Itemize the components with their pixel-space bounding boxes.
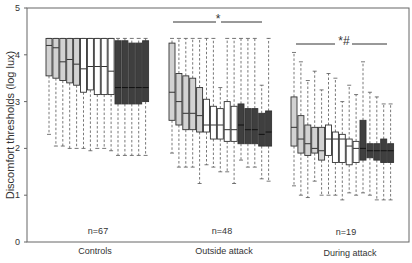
box [81,38,87,148]
box-body [129,43,135,104]
box [53,38,59,146]
box-body [143,41,149,102]
box [190,38,196,167]
y-tick-label: 5 [15,3,20,13]
box-body [231,106,237,141]
box [197,38,203,183]
box-body [353,141,359,162]
box [143,38,149,155]
box-body [169,43,175,120]
box-plot-chart: 012345 Discomfort thresholds (log lux) *… [0,0,412,263]
box-group-during-attack [291,52,394,199]
box-body [245,109,251,144]
category-label-outside: Outside attack [195,246,253,256]
box [129,38,135,155]
significance-marker-during: *# [338,34,350,48]
box-body [53,38,59,78]
box-body [259,113,265,146]
box-body [81,38,87,92]
box [204,38,210,164]
box-body [332,132,338,162]
box [224,38,230,171]
box [60,38,66,146]
box-body [252,109,258,144]
box-body [136,43,142,104]
box-body [176,74,182,125]
box [291,52,297,185]
box [210,38,216,167]
box [238,38,244,160]
box-body [122,41,128,104]
box [67,38,73,148]
box [122,38,128,155]
box [101,38,107,148]
box-body [87,38,93,89]
box-body [305,125,311,155]
box [115,38,121,155]
box-body [46,38,52,75]
box-body [108,38,114,94]
box-body [74,38,80,85]
box [245,38,251,167]
box-body [224,102,230,142]
category-label-during: During attack [323,248,377,258]
y-axis-label: Discomfort thresholds (log lux) [4,51,16,200]
box [319,90,325,195]
box-group-controls [46,38,149,155]
box-body [197,88,203,132]
box-body [346,139,352,165]
box [305,81,311,198]
box-body [319,127,325,160]
box-body [190,78,196,129]
box-body [326,125,332,155]
box [346,85,352,193]
box-body [291,97,297,146]
box [360,62,366,193]
box [217,88,223,172]
box-body [115,41,121,104]
n-label-outside: n=48 [212,226,232,236]
box [87,38,93,150]
box [108,38,114,150]
box [367,92,373,195]
box [94,38,100,148]
box-body [374,144,380,160]
box [74,38,80,148]
box-body [266,111,272,146]
box [176,38,182,167]
box [353,95,359,196]
y-tick-label: 0 [15,237,20,247]
box-body [360,120,366,160]
box-group-outside-attack [169,38,272,183]
box [266,38,272,181]
box [252,38,258,167]
box-series [46,38,394,199]
box [381,104,387,200]
box-body [238,104,244,144]
box [169,38,175,153]
box [183,38,189,167]
box-body [312,127,318,153]
box [46,38,52,134]
box [326,74,332,196]
significance-marker-outside: * [216,12,221,26]
y-axis: 012345 [15,3,27,247]
box [339,102,345,200]
category-label-controls: Controls [78,246,112,256]
box [332,78,338,195]
box [259,85,265,179]
significance-bars [173,22,387,44]
box [298,62,304,195]
box-body [210,106,216,139]
box-body [217,109,223,139]
box [136,38,142,155]
box [231,38,237,183]
box [374,97,380,200]
box [388,104,394,200]
box-body [388,144,394,163]
n-label-controls: n=67 [88,226,108,236]
box-body [204,99,210,132]
box-body [183,76,189,130]
box-body [67,38,73,82]
box-body [60,38,66,80]
